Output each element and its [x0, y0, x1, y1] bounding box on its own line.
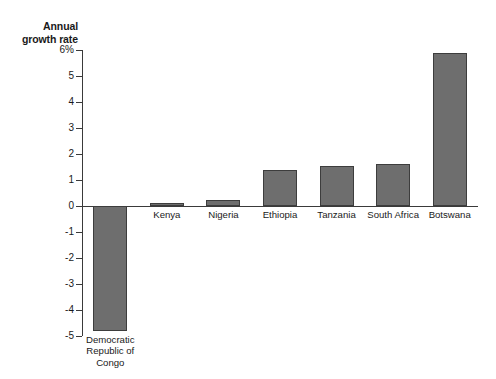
bar	[93, 206, 127, 331]
bar-chart: Annual growth rate 6%543210-1-2-3-4-5 De…	[0, 0, 496, 379]
bar	[433, 53, 467, 206]
y-tick-mark	[76, 128, 82, 129]
y-tick-mark	[76, 206, 82, 207]
y-tick-mark	[76, 258, 82, 259]
y-tick-label: -1	[65, 227, 74, 237]
y-tick-mark	[76, 232, 82, 233]
bar	[263, 170, 297, 206]
y-tick-label: 4	[68, 97, 74, 107]
y-tick-mark	[76, 76, 82, 77]
y-tick-label: 5	[68, 71, 74, 81]
bar-label: Democratic Republic of Congo	[71, 334, 150, 368]
y-tick-mark	[76, 154, 82, 155]
bar	[206, 200, 240, 207]
bar	[376, 164, 410, 206]
y-tick-label: -2	[65, 253, 74, 263]
y-tick-mark	[76, 284, 82, 285]
plot-area: 6%543210-1-2-3-4-5 Democratic Republic o…	[82, 50, 478, 336]
y-tick-label: 2	[68, 149, 74, 159]
y-tick-label: -3	[65, 279, 74, 289]
y-axis-title: Annual growth rate	[0, 20, 78, 45]
zero-baseline	[82, 206, 478, 207]
bar	[150, 203, 184, 206]
bar	[320, 166, 354, 206]
y-tick-label: 3	[68, 123, 74, 133]
y-tick-mark	[76, 310, 82, 311]
y-tick-label: 1	[68, 175, 74, 185]
y-tick-mark	[76, 102, 82, 103]
bar-label: Botswana	[410, 209, 489, 220]
y-axis-line	[82, 50, 83, 336]
y-tick-label: -4	[65, 305, 74, 315]
y-tick-mark	[76, 180, 82, 181]
y-tick-mark	[76, 50, 82, 51]
y-tick-label: 0	[68, 201, 74, 211]
y-tick-label: 6%	[60, 45, 74, 55]
